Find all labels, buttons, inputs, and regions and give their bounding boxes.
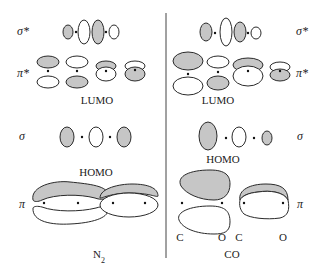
co-lumo-label: LUMO xyxy=(202,94,234,106)
n2-sigma-star-label: σ* xyxy=(17,24,29,38)
co-pi-star-orbital-1 xyxy=(173,52,203,95)
co-pi-orbital-1 xyxy=(179,170,230,234)
co-molecule-label: CO xyxy=(224,248,239,260)
n2-pi-star-orbital-4 xyxy=(125,61,145,81)
co-sigma-orbital xyxy=(199,122,272,150)
co-atom-label-c2: C xyxy=(235,231,242,243)
mo-diagram: σ* π* σ π LUMO HOMO xyxy=(0,0,317,273)
n2-molecule-label: N2 xyxy=(93,248,105,265)
n2-lumo-label: LUMO xyxy=(81,94,113,106)
co-sigma-star-orbital xyxy=(200,18,261,46)
co-homo-label: HOMO xyxy=(206,153,240,165)
co-pi-orbital-2 xyxy=(240,184,289,219)
n2-pi-star-label: π* xyxy=(17,66,29,80)
n2-sigma-orbital xyxy=(60,127,131,147)
co-pi-label: π xyxy=(297,197,304,211)
n2-pi-star-orbital-3 xyxy=(96,61,116,81)
co-pi-star-orbital-3 xyxy=(233,58,263,86)
co-pi-star-orbital-2 xyxy=(207,56,229,90)
co-atom-label-o1: O xyxy=(218,231,226,243)
co-sigma-label: σ xyxy=(297,129,304,143)
n2-pi-label: π xyxy=(19,197,26,211)
n2-pi-orbital-1 xyxy=(33,182,108,225)
n2-sigma-label: σ xyxy=(19,129,26,143)
co-pi-star-label: π* xyxy=(296,66,308,80)
co-atom-label-o2: O xyxy=(279,231,287,243)
n2-pi-star-orbital-2 xyxy=(66,56,88,88)
n2-sigma-star-orbital xyxy=(63,20,119,44)
co-sigma-star-label: σ* xyxy=(296,24,308,38)
n2-pi-star-orbital-1 xyxy=(37,56,59,88)
co-atom-label-c1: C xyxy=(176,231,183,243)
n2-pi-orbital-2 xyxy=(100,184,158,217)
n2-homo-label: HOMO xyxy=(79,166,113,178)
co-pi-star-orbital-4 xyxy=(270,62,290,81)
